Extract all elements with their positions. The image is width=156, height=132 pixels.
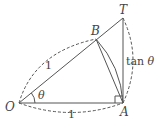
tan-theta-symbol: θ (148, 55, 155, 68)
label-radius-lower: 1 (68, 108, 75, 121)
unit-circle-tangent-diagram: O A T B θ 1 1 tan θ (0, 0, 156, 132)
label-B: B (90, 24, 100, 38)
label-O: O (5, 100, 15, 114)
label-theta: θ (38, 89, 45, 102)
segment-AB (96, 39, 123, 103)
label-radius-upper: 1 (45, 59, 52, 72)
label-T: T (119, 3, 128, 17)
angle-theta-arc (31, 93, 35, 103)
segment-OT (19, 18, 123, 103)
label-tan-theta: tan θ (126, 55, 155, 68)
tan-prefix: tan (126, 55, 148, 68)
label-A: A (119, 105, 129, 119)
